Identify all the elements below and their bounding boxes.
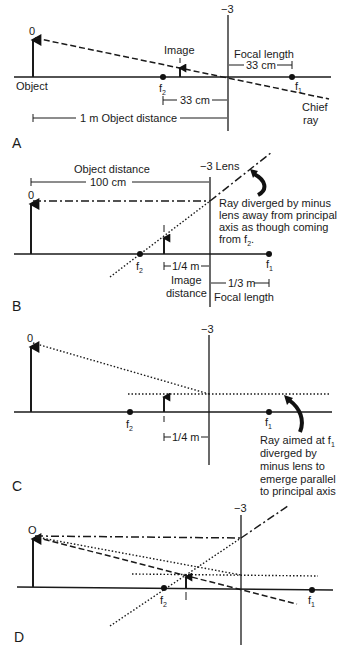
chief-ray-label: Chief xyxy=(302,101,329,113)
f1-label: f1 xyxy=(265,416,272,430)
panel-label-c: C xyxy=(12,478,22,494)
panel-c: −3 0 I f2 f1 1/4 m Ray aimed at f1 diver… xyxy=(12,0,336,497)
object-label: 0 xyxy=(27,332,33,344)
panel-d: −3 O f2 f1 D xyxy=(14,502,333,645)
focal-point-f2 xyxy=(160,74,166,80)
annotation-arrow xyxy=(254,174,264,195)
panel-label-a: A xyxy=(12,135,22,151)
f2-label: f2 xyxy=(126,418,133,432)
image-distance-label: distance xyxy=(166,287,207,299)
annotation-line: Ray aimed at f1 xyxy=(260,434,335,448)
annotation-line: Ray diverged by minus xyxy=(219,197,331,209)
annotation-arrow xyxy=(289,400,302,432)
image-distance-value: 33 cm xyxy=(180,94,210,106)
object-distance-label: 1 m Object distance xyxy=(80,112,177,124)
object-label: 0 xyxy=(29,25,35,37)
parallel-emerging-ray xyxy=(132,574,318,576)
annotation-line: lens away from principal xyxy=(219,209,337,221)
object-label: 0 xyxy=(28,189,34,201)
focal-point-f1 xyxy=(309,587,315,593)
image-distance-label: Image xyxy=(171,274,202,286)
annotation-line: to principal axis xyxy=(260,485,336,497)
chief-ray xyxy=(35,537,297,604)
focal-point-f1 xyxy=(266,251,272,257)
f2-label: f2 xyxy=(160,594,167,608)
focal-length-value: 33 cm xyxy=(246,59,276,71)
lens-power-label: −3 xyxy=(234,502,247,514)
annotation-line: emerge parallel xyxy=(260,473,336,485)
ray-aimed-at-f1 xyxy=(33,343,209,394)
f1-label: f1 xyxy=(308,594,315,608)
annotation-line: from f2. xyxy=(219,233,254,247)
focal-point-f2 xyxy=(127,409,133,415)
image-distance-value: 1/4 m xyxy=(172,260,200,272)
f2-label: f2 xyxy=(136,260,143,274)
ray-diagram-figure: −3 0 Object Image f2 f1 Focal length 33 … xyxy=(0,0,350,649)
f1-label: f1 xyxy=(295,80,302,94)
annotation-line: axis as though coming xyxy=(219,221,328,233)
lens-power-label: −3 Lens xyxy=(200,160,240,172)
panel-label-b: B xyxy=(12,298,21,314)
ray-aimed-at-f1 xyxy=(36,537,241,575)
lens-power-label: −3 xyxy=(221,3,234,15)
annotation-line: minus lens to xyxy=(260,460,325,472)
annotation-line: diverged by xyxy=(260,447,317,459)
object-label: O xyxy=(28,524,37,536)
object-distance-value: 100 cm xyxy=(90,176,126,188)
diverged-ray xyxy=(241,506,288,538)
image-distance-value: 1/4 m xyxy=(172,431,200,443)
object-distance-label: Object distance xyxy=(74,163,150,175)
focal-point-f2 xyxy=(137,251,143,257)
parallel-ray xyxy=(35,536,241,538)
principal-axis xyxy=(17,587,333,590)
chief-ray-label: ray xyxy=(303,114,319,126)
panel-b: −3 Lens Object distance 100 cm 0 f2 f1 1… xyxy=(12,152,337,314)
lens-power-label: −3 xyxy=(201,323,214,335)
f1-label: f1 xyxy=(266,258,273,272)
object-caption: Object xyxy=(16,80,48,92)
image-label: Image xyxy=(164,44,195,56)
panel-a: −3 0 Object Image f2 f1 Focal length 33 … xyxy=(12,3,331,151)
f2-label: f2 xyxy=(159,82,166,96)
focal-point-f1 xyxy=(266,409,272,415)
focal-length-label: Focal length xyxy=(214,291,274,303)
panel-label-d: D xyxy=(14,629,24,645)
focal-length-value: 1/3 m xyxy=(228,277,256,289)
focal-point-f2 xyxy=(161,585,167,591)
virtual-ray-extension xyxy=(110,538,241,626)
